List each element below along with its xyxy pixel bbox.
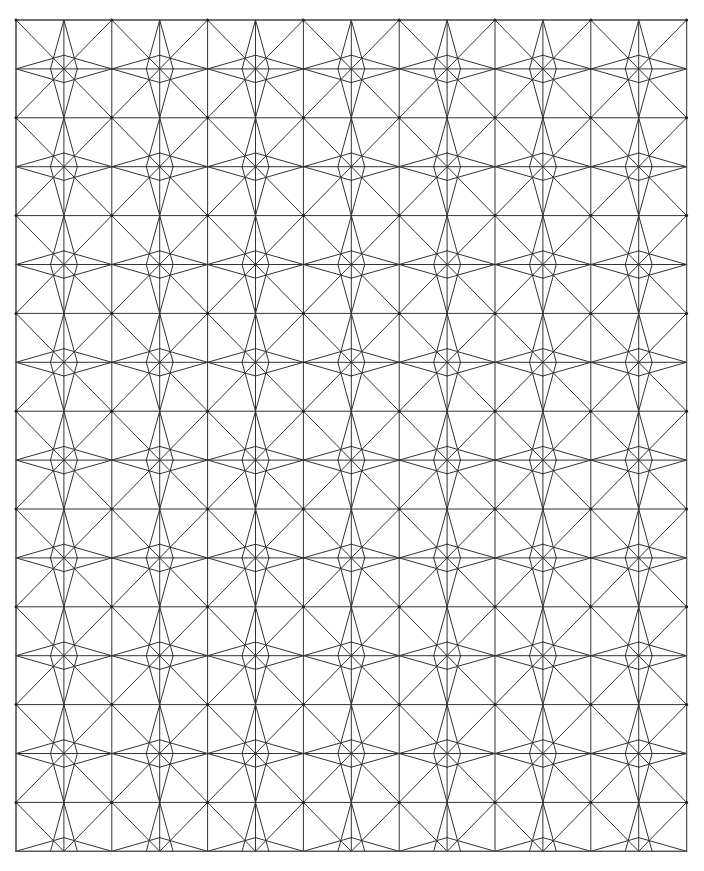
star-center-node <box>302 801 305 804</box>
star-center-node <box>206 801 209 804</box>
star-center-node <box>206 703 209 706</box>
star-center-node <box>589 214 592 217</box>
star-center-node <box>302 312 305 315</box>
star-center-node <box>110 703 113 706</box>
star-center-node <box>589 801 592 804</box>
star-center-node <box>494 703 497 706</box>
star-center-node <box>206 508 209 511</box>
star-center-node <box>302 19 305 22</box>
star-center-node <box>15 605 18 608</box>
star-center-node <box>398 116 401 119</box>
star-center-node <box>685 703 688 706</box>
star-center-node <box>15 508 18 511</box>
star-center-node <box>15 801 18 804</box>
star-center-node <box>398 19 401 22</box>
star-center-node <box>494 19 497 22</box>
star-center-node <box>589 312 592 315</box>
star-center-node <box>110 508 113 511</box>
star-center-node <box>685 116 688 119</box>
star-center-node <box>15 214 18 217</box>
star-center-node <box>685 801 688 804</box>
star-center-node <box>302 605 305 608</box>
star-center-node <box>589 116 592 119</box>
star-center-node <box>398 605 401 608</box>
star-center-node <box>589 19 592 22</box>
star-center-node <box>110 801 113 804</box>
star-center-node <box>494 312 497 315</box>
star-center-node <box>398 312 401 315</box>
star-center-node <box>685 19 688 22</box>
star-center-node <box>110 410 113 413</box>
star-center-node <box>302 214 305 217</box>
star-center-node <box>589 605 592 608</box>
star-center-node <box>494 410 497 413</box>
star-center-node <box>110 312 113 315</box>
star-center-node <box>15 703 18 706</box>
star-center-node <box>110 605 113 608</box>
star-center-node <box>206 214 209 217</box>
star-center-node <box>589 410 592 413</box>
star-center-node <box>206 410 209 413</box>
star-center-node <box>206 116 209 119</box>
star-center-node <box>494 508 497 511</box>
star-center-node <box>398 410 401 413</box>
star-center-node <box>685 214 688 217</box>
star-center-node <box>302 410 305 413</box>
star-center-node <box>685 508 688 511</box>
star-center-node <box>398 801 401 804</box>
star-center-node <box>494 801 497 804</box>
star-center-node <box>206 19 209 22</box>
figure-root <box>0 0 704 871</box>
star-center-node <box>589 508 592 511</box>
star-center-node <box>685 312 688 315</box>
star-center-node <box>206 605 209 608</box>
star-center-node <box>589 703 592 706</box>
star-center-node <box>15 410 18 413</box>
star-center-node <box>15 19 18 22</box>
star-center-node <box>398 508 401 511</box>
star-center-node <box>110 116 113 119</box>
star-center-node <box>110 214 113 217</box>
star-center-node <box>110 19 113 22</box>
star-center-node <box>302 703 305 706</box>
star-center-node <box>685 605 688 608</box>
star-center-node <box>398 703 401 706</box>
star-center-node <box>15 312 18 315</box>
star-center-node <box>302 508 305 511</box>
star-center-node <box>15 116 18 119</box>
star-center-node <box>494 214 497 217</box>
mesh-pattern-svg <box>0 0 704 871</box>
star-center-node <box>398 214 401 217</box>
star-center-node <box>302 116 305 119</box>
star-center-node <box>494 116 497 119</box>
star-center-node <box>685 410 688 413</box>
star-center-node <box>494 605 497 608</box>
star-center-node <box>206 312 209 315</box>
